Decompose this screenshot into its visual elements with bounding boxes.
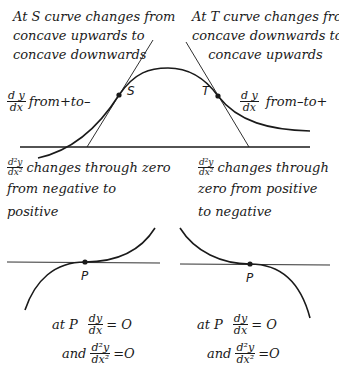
top-right-derivative-statement: d y dx from–to+ xyxy=(240,90,327,113)
second-derivative-fraction: d²y dx² xyxy=(235,342,255,365)
top-right-caption: At T curve changes from concave downward… xyxy=(192,7,339,64)
top-left-derivative-statement: d y dx from+to– xyxy=(7,90,90,113)
first-derivative-fraction: dy dx xyxy=(233,313,248,336)
caption-line: from negative to xyxy=(7,179,170,198)
point-p-left-marker xyxy=(82,259,87,264)
bottom-right-caption: d²y dx² changes through zero from positi… xyxy=(198,158,329,221)
bell-curve xyxy=(38,68,310,158)
derivative-sign-change: from+to– xyxy=(29,94,91,109)
point-p-right-label: P xyxy=(246,271,253,285)
top-left-caption: At S curve changes from concave upwards … xyxy=(13,7,175,64)
caption-line: concave downwards to xyxy=(192,26,339,45)
bottom-right-curve xyxy=(180,228,310,318)
second-derivative-fraction: d²y dx² xyxy=(198,158,214,177)
caption-line: concave upwards xyxy=(192,45,339,64)
point-s-label: S xyxy=(127,84,135,98)
derivative-sign-change: from–to+ xyxy=(266,94,328,109)
point-t-marker xyxy=(215,93,220,98)
caption-line: At S curve changes from xyxy=(13,7,175,26)
point-p-left-label: P xyxy=(81,269,88,283)
point-s-marker xyxy=(116,92,121,97)
caption-line: concave downwards xyxy=(13,45,175,64)
caption-line: changes through zero xyxy=(26,158,170,177)
point-p-right-marker xyxy=(247,261,252,266)
first-derivative-fraction: dy dx xyxy=(88,313,103,336)
first-derivative-fraction: d y dx xyxy=(7,90,26,113)
caption-line: concave upwards to xyxy=(13,26,175,45)
bottom-right-eq2: and d²y dx² =O xyxy=(207,342,280,365)
caption-line: At T curve changes from xyxy=(192,7,339,26)
second-derivative-fraction: d²y dx² xyxy=(90,342,110,365)
caption-line: to negative xyxy=(198,202,329,221)
caption-line: zero from positive xyxy=(198,179,329,198)
second-derivative-fraction: d²y dx² xyxy=(7,158,23,177)
caption-line: positive xyxy=(7,202,170,221)
bottom-left-caption: d²y dx² changes through zero from negati… xyxy=(7,158,170,221)
bottom-left-eq2: and d²y dx² =O xyxy=(62,342,135,365)
bottom-left-eq1: at P dy dx = O xyxy=(52,313,132,336)
caption-line: changes through xyxy=(217,158,328,177)
first-derivative-fraction: d y dx xyxy=(240,90,259,113)
bottom-right-eq1: at P dy dx = O xyxy=(197,313,277,336)
bottom-left-curve xyxy=(25,228,155,310)
point-t-label: T xyxy=(202,84,209,98)
